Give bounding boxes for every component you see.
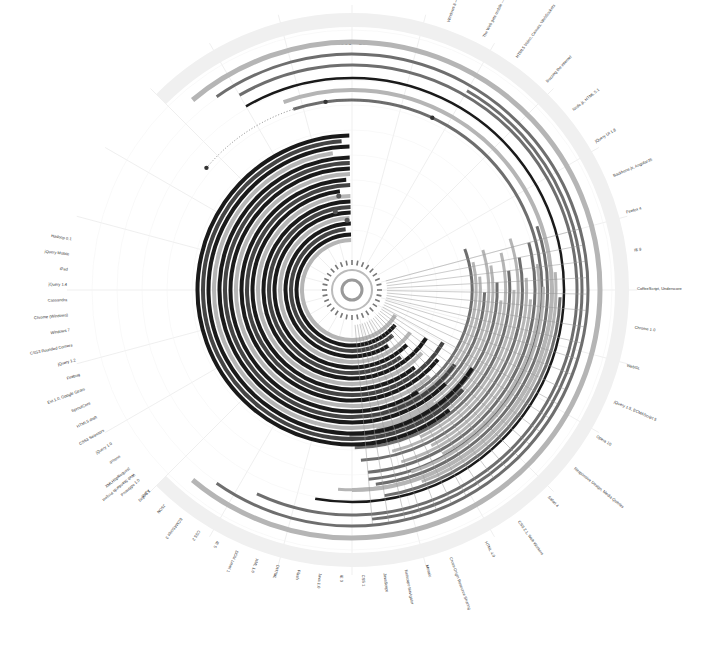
event-label: jQuery 1.5, ECMAScript 5 [612,399,658,422]
center-tick [346,315,347,320]
event-label: Cross-Origin Resource Sharing [449,556,473,610]
event-label: Responsive Design, Media Queries [573,466,625,509]
center-tick [324,300,329,302]
event-label: XML 1.0 [250,558,260,574]
center-tick [362,262,364,267]
event-label: iPhone [108,453,122,465]
event-label: Buzzing the internet [545,54,574,84]
event-label: CSS 2.1, Web Workers [517,520,545,556]
center-inner-ring [342,280,362,300]
radial-timeline: Windows 8 — Windows Phone 8The Web gets … [0,0,711,662]
event-label: Windows 7 [50,327,71,335]
center-tick [327,273,331,276]
event-label: Hadoop 0.1 [51,233,73,242]
center-tick [373,273,377,276]
center-tick [375,279,380,281]
center-tick [373,304,377,307]
event-label: Firebug [66,372,80,381]
event-label: IE 5 [212,540,220,549]
event-label: Firefox 4 [625,205,642,214]
event-label: CSS3 Selectors [78,428,105,446]
event-label: Cassandra [48,297,68,303]
event-label: jQuery UI 1.8 [593,127,617,144]
event-label: WebGL [626,363,641,372]
event-label: jQuery Mobile [43,248,70,256]
event-label: IE 9 [634,246,642,252]
event-label: HTML 4.0 [484,540,497,558]
center-tick [331,308,335,312]
event-label: JavaScript [382,573,389,593]
center-outer-ring [332,270,372,310]
event-label: jQuery 1.0 [94,441,114,456]
event-label: The Web gets mobile — iPhone [481,0,512,38]
event-label: Chrome (Windows) [34,312,69,320]
event-label: Mosaic [425,564,433,578]
event-label: CSS 1 [361,575,366,588]
center-tick [331,269,335,273]
event-label: Java 1.0 [316,573,323,589]
event-label: HTML5 Video, Canvas, WebSockets [514,3,556,59]
event-label: jQuery 1.2 [56,357,77,367]
event-label: CSS3 Rounded Corners [30,342,73,355]
event-label: DOM Level 1 [225,550,239,574]
milestone-dot [204,166,208,170]
event-label: Windows 8 — Windows Phone 8 [446,0,471,23]
center-tick [357,261,358,266]
event-label: SproutCore [71,400,92,413]
center-tick [370,269,374,273]
event-label: iPad [60,266,68,272]
event-label: IE 3 [339,575,344,583]
event-label: HTML5 draft [76,414,99,429]
event-label: Flash [295,570,302,581]
center-tick [327,304,331,307]
center-tick [362,313,364,318]
milestone-dot [333,209,338,214]
milestone-dot [345,218,350,223]
event-label: Node.js, HTML 5.1 [571,87,601,112]
event-label: CoffeeScript, Underscore [637,286,683,291]
center-tick [370,308,374,312]
center-tick [323,284,328,285]
event-label: Chrome 1.0 [634,325,656,333]
milestone-dot [323,100,327,104]
event-label: JSON [156,503,167,514]
event-label: DHTML [272,565,281,580]
center-tick [366,311,369,315]
event-label: Safari 4 [547,495,561,509]
milestone-dot [336,193,341,198]
center-tick [366,265,369,269]
center-tick [341,262,343,267]
center-tick [357,315,358,320]
center-tick [335,265,338,269]
center-tick [324,279,329,281]
event-label: CSS 2 [191,529,202,542]
event-label: Opera 10 [595,434,613,447]
center-tick [335,311,338,315]
event-label: Backbone.js, AngularJS [612,157,653,178]
center-tick [323,295,328,296]
event-label: Netscape Navigator [404,569,416,605]
event-label: Ext 1.0, Google Gears [47,386,86,405]
center-tick [346,261,347,266]
milestone-dot [430,116,434,120]
center-tick [377,295,382,296]
center-tick [341,313,343,318]
event-label: ECMAScript 3 [164,517,184,541]
event-label: jQuery 1.4 [48,282,68,287]
center-tick [377,284,382,285]
center-tick [375,300,380,302]
